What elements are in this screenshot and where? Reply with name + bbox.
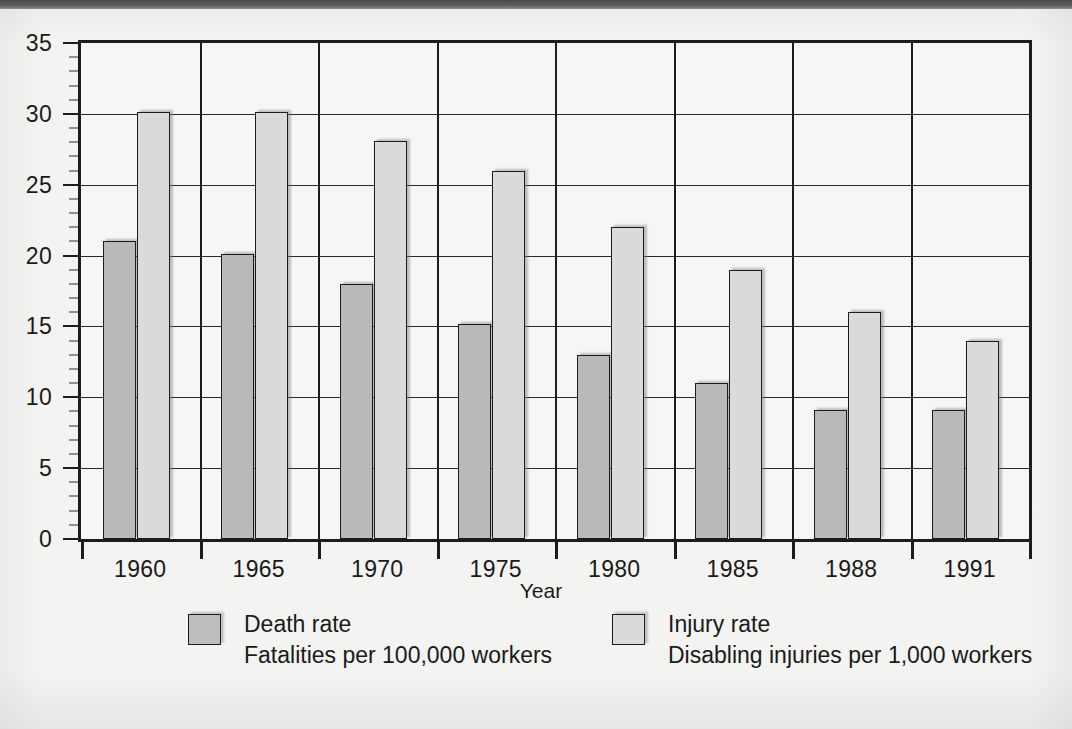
bar-injury-rate-1965 bbox=[255, 112, 288, 539]
bar-injury-rate-1988 bbox=[848, 312, 881, 539]
legend-sublabel: Fatalities per 100,000 workers bbox=[244, 643, 552, 668]
y-axis-minor-tick bbox=[69, 99, 78, 100]
y-axis-minor-tick bbox=[69, 71, 78, 72]
bar-death-rate-1960 bbox=[103, 241, 136, 539]
y-axis-minor-tick bbox=[69, 368, 78, 369]
legend-item-death-rate: Death rateFatalities per 100,000 workers bbox=[188, 612, 552, 668]
chart-legend: Death rateFatalities per 100,000 workers… bbox=[0, 612, 1072, 702]
y-axis-minor-tick bbox=[69, 453, 78, 454]
x-axis-tick bbox=[318, 542, 321, 559]
bar-death-rate-1980 bbox=[577, 355, 610, 539]
group-separator-line bbox=[911, 43, 913, 539]
y-axis-minor-tick bbox=[69, 425, 78, 426]
y-axis-minor-tick bbox=[69, 142, 78, 143]
x-axis-title: Year bbox=[0, 579, 1072, 603]
plot-area bbox=[78, 40, 1032, 542]
x-axis-tick bbox=[1029, 542, 1032, 559]
y-axis-tick-label: 15 bbox=[26, 313, 52, 340]
y-axis-minor-tick bbox=[69, 411, 78, 412]
y-axis-minor-tick bbox=[69, 510, 78, 511]
bar-death-rate-1985 bbox=[695, 383, 728, 539]
y-axis-major-tick bbox=[63, 42, 78, 44]
y-axis-tick-label: 35 bbox=[26, 30, 52, 57]
bar-death-rate-1988 bbox=[814, 410, 847, 539]
y-axis-tick-label: 25 bbox=[26, 171, 52, 198]
y-axis-minor-tick bbox=[69, 213, 78, 214]
group-separator-line bbox=[792, 43, 794, 539]
x-axis-tick bbox=[911, 542, 914, 559]
y-axis-tick-label: 0 bbox=[39, 526, 52, 553]
y-axis-tick-label: 30 bbox=[26, 100, 52, 127]
x-axis-tick bbox=[437, 542, 440, 559]
y-axis-minor-tick bbox=[69, 227, 78, 228]
y-axis-minor-tick bbox=[69, 439, 78, 440]
legend-text-block: Injury rateDisabling injuries per 1,000 … bbox=[668, 612, 1032, 668]
y-axis-tick-label: 20 bbox=[26, 242, 52, 269]
grouped-bar-chart-figure: 05101520253035 1960196519701975198019851… bbox=[0, 0, 1072, 729]
y-axis-minor-tick bbox=[69, 482, 78, 483]
x-axis-tick bbox=[674, 542, 677, 559]
legend-label: Death rate bbox=[244, 612, 552, 637]
legend-label: Injury rate bbox=[668, 612, 1032, 637]
death-rate-swatch bbox=[188, 614, 221, 645]
x-axis-tick bbox=[792, 542, 795, 559]
group-separator-line bbox=[437, 43, 439, 539]
y-axis-minor-tick bbox=[69, 128, 78, 129]
y-axis-tick-label: 10 bbox=[26, 384, 52, 411]
x-axis-tick bbox=[200, 542, 203, 559]
y-axis-minor-tick bbox=[69, 170, 78, 171]
y-axis-major-tick bbox=[63, 538, 78, 540]
y-axis-tick-label: 5 bbox=[39, 455, 52, 482]
bar-death-rate-1975 bbox=[458, 324, 491, 539]
y-axis-major-tick bbox=[63, 113, 78, 115]
y-axis-minor-tick bbox=[69, 496, 78, 497]
y-axis-major-tick bbox=[63, 396, 78, 398]
y-axis-minor-tick bbox=[69, 340, 78, 341]
y-axis-minor-tick bbox=[69, 354, 78, 355]
y-axis-minor-tick bbox=[69, 383, 78, 384]
bar-injury-rate-1980 bbox=[611, 227, 644, 539]
bar-injury-rate-1975 bbox=[492, 171, 525, 539]
y-axis-minor-tick bbox=[69, 198, 78, 199]
y-axis-minor-tick bbox=[69, 269, 78, 270]
group-separator-line bbox=[555, 43, 557, 539]
y-axis-major-tick bbox=[63, 184, 78, 186]
legend-sublabel: Disabling injuries per 1,000 workers bbox=[668, 643, 1032, 668]
y-axis-minor-tick bbox=[69, 241, 78, 242]
bar-injury-rate-1970 bbox=[374, 141, 407, 539]
y-axis-major-tick bbox=[63, 325, 78, 327]
group-separator-line bbox=[674, 43, 676, 539]
y-axis: 05101520253035 bbox=[0, 40, 78, 542]
y-axis-minor-tick bbox=[69, 298, 78, 299]
group-separator-line bbox=[318, 43, 320, 539]
y-axis-major-tick bbox=[63, 255, 78, 257]
bar-death-rate-1991 bbox=[932, 410, 965, 539]
injury-rate-swatch bbox=[612, 614, 645, 645]
bar-death-rate-1970 bbox=[340, 284, 373, 539]
y-axis-minor-tick bbox=[69, 312, 78, 313]
y-axis-minor-tick bbox=[69, 85, 78, 86]
y-axis-minor-tick bbox=[69, 57, 78, 58]
bar-death-rate-1965 bbox=[221, 254, 254, 539]
bar-injury-rate-1991 bbox=[966, 341, 999, 539]
group-separator-line bbox=[200, 43, 202, 539]
legend-item-injury-rate: Injury rateDisabling injuries per 1,000 … bbox=[612, 612, 1032, 668]
bar-injury-rate-1985 bbox=[729, 270, 762, 539]
y-axis-major-tick bbox=[63, 467, 78, 469]
x-axis-tick bbox=[555, 542, 558, 559]
y-axis-minor-tick bbox=[69, 283, 78, 284]
y-axis-minor-tick bbox=[69, 156, 78, 157]
legend-text-block: Death rateFatalities per 100,000 workers bbox=[244, 612, 552, 668]
bar-injury-rate-1960 bbox=[137, 112, 170, 539]
x-axis-title-label: Year bbox=[520, 579, 562, 602]
x-axis-tick bbox=[81, 542, 84, 559]
y-axis-minor-tick bbox=[69, 524, 78, 525]
